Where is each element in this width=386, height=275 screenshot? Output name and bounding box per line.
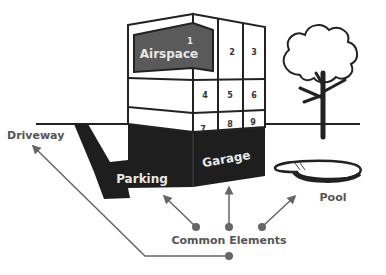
arrow-to-pool	[262, 198, 293, 227]
unit-number-9: 9	[250, 118, 256, 127]
airspace-label: Airspace	[140, 47, 198, 61]
parking-label: Parking	[116, 172, 168, 186]
unit-number-8: 8	[227, 120, 233, 129]
unit-number-5: 5	[227, 91, 233, 100]
unit-number-7: 7	[200, 125, 206, 134]
unit-number-4: 4	[202, 91, 208, 100]
unit-number-6: 6	[251, 91, 257, 100]
pool-label: Pool	[320, 191, 347, 204]
driveway-label: Driveway	[7, 129, 64, 142]
unit-number-2: 2	[229, 48, 235, 57]
unit-number-3: 3	[251, 48, 257, 57]
common-elements-label: Common Elements	[171, 234, 287, 247]
tree-icon	[284, 25, 357, 137]
arrow-to-parking	[166, 198, 196, 227]
unit-number-1: 1	[187, 37, 193, 46]
pool-icon	[275, 161, 361, 181]
condo-ownership-diagram: 1 2 3 4 5 6 7 8 9 Airspace Parking Garag…	[0, 0, 386, 275]
